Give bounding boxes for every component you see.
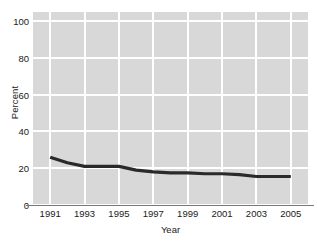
y-tick-label: 40 bbox=[0, 126, 29, 137]
x-tick-label: 2005 bbox=[280, 208, 301, 219]
x-tick-label: 1997 bbox=[143, 208, 164, 219]
y-axis-title: Percent bbox=[0, 0, 30, 205]
y-tick-label: 20 bbox=[0, 163, 29, 174]
x-tick-label: 1995 bbox=[108, 208, 129, 219]
y-tick-label: 60 bbox=[0, 89, 29, 100]
x-tick-label: 1991 bbox=[40, 208, 61, 219]
x-axis-line bbox=[26, 205, 314, 206]
x-axis-title: Year bbox=[33, 224, 308, 235]
x-tick-label: 2001 bbox=[211, 208, 232, 219]
x-tick-label: 1993 bbox=[74, 208, 95, 219]
x-tick-label: 2003 bbox=[246, 208, 267, 219]
plot-area bbox=[33, 12, 308, 205]
series-polyline bbox=[50, 157, 291, 176]
y-tick-label: 100 bbox=[0, 16, 29, 27]
data-series-line bbox=[33, 12, 308, 205]
x-tick-label: 1999 bbox=[177, 208, 198, 219]
y-tick-label: 80 bbox=[0, 52, 29, 63]
y-tick-label: 0 bbox=[0, 200, 29, 211]
line-chart: Percent 020406080100 1991199319951997199… bbox=[0, 0, 317, 244]
